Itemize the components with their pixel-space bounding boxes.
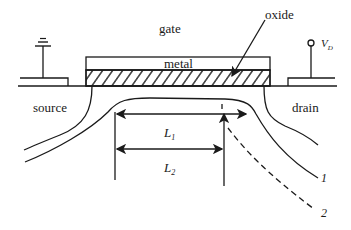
l1-label: L1	[163, 125, 175, 142]
curve-2-label: 2	[321, 206, 327, 220]
source-contact	[20, 78, 68, 86]
gate-oxide	[86, 70, 270, 86]
terminal-circle-icon	[308, 40, 314, 78]
drain-voltage-label: VD	[321, 37, 333, 52]
source-label: source	[33, 100, 67, 115]
drain-contact	[288, 78, 335, 86]
l2-label: L2	[163, 160, 175, 177]
oxide-label: oxide	[265, 7, 294, 22]
gate-label: gate	[159, 21, 181, 36]
ground-icon	[35, 39, 51, 79]
source-junction	[24, 86, 92, 150]
mosfet-diagram: gate metal oxide source drain VD L1 L2 1…	[0, 0, 351, 230]
channel-curve-2	[228, 128, 314, 209]
metal-label: metal	[164, 56, 193, 71]
drain-junction	[264, 86, 318, 145]
drain-label: drain	[292, 100, 319, 115]
curve-1-label: 1	[321, 171, 327, 185]
